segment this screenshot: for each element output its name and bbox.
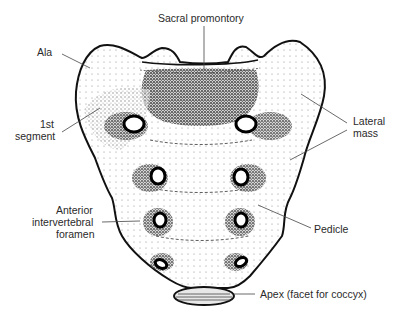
- label-anterior-foramen-line1: Anterior: [56, 204, 93, 216]
- foramen-1-right: [236, 116, 256, 132]
- label-1st-segment-line2: segment: [15, 130, 55, 142]
- label-lateral-mass-line1: Lateral: [353, 115, 385, 127]
- label-apex: Apex (facet for coccyx): [260, 288, 367, 300]
- foramen-2-right: [234, 169, 248, 185]
- label-lateral-mass-line2: mass: [353, 127, 378, 139]
- label-ala: Ala: [37, 46, 52, 58]
- foramen-3-right: [235, 213, 247, 227]
- label-sacral-promontory: Sacral promontory: [158, 12, 244, 24]
- foramen-3-left: [154, 213, 166, 227]
- label-anterior-foramen-line3: foramen: [56, 228, 95, 240]
- foramen-2-left: [151, 168, 165, 184]
- label-1st-segment-line1: 1st: [40, 118, 54, 130]
- label-anterior-foramen-line2: intervertebral: [32, 216, 93, 228]
- label-pedicle: Pedicle: [314, 223, 348, 235]
- apex-facet: [174, 287, 234, 305]
- foramen-1-left: [124, 116, 144, 132]
- sacrum-illustration: [0, 0, 401, 316]
